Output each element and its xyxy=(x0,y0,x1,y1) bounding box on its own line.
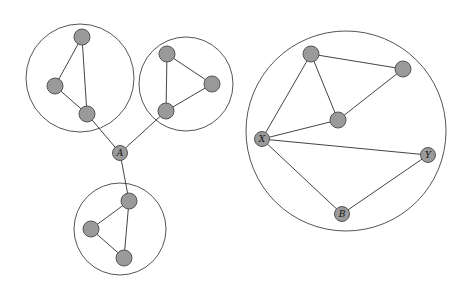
node-n12 xyxy=(330,112,346,128)
node-label: X xyxy=(258,134,266,144)
edge-n1-n3 xyxy=(82,37,87,114)
edge-n12-X xyxy=(262,120,338,139)
node-Y: Y xyxy=(421,148,436,163)
edge-Y-B xyxy=(342,155,428,214)
node-label: Y xyxy=(425,150,432,160)
cluster-c4 xyxy=(246,31,446,231)
node-circle xyxy=(121,193,137,209)
edges xyxy=(55,37,428,258)
edge-n11-n12 xyxy=(338,69,403,120)
node-n9 xyxy=(116,250,132,266)
node-label: B xyxy=(338,209,346,219)
node-circle xyxy=(79,106,95,122)
node-n6 xyxy=(158,103,174,119)
node-n1 xyxy=(74,29,90,45)
node-n2 xyxy=(47,78,63,94)
node-circle xyxy=(159,46,175,62)
node-n10 xyxy=(303,46,319,62)
node-n5 xyxy=(204,76,220,92)
node-circle xyxy=(330,112,346,128)
node-n11 xyxy=(395,61,411,77)
edge-X-B xyxy=(262,139,342,214)
node-B: B xyxy=(335,207,350,222)
node-n4 xyxy=(159,46,175,62)
node-n7 xyxy=(121,193,137,209)
edge-n10-n12 xyxy=(311,54,338,120)
node-circle xyxy=(204,76,220,92)
node-circle xyxy=(303,46,319,62)
node-circle xyxy=(74,29,90,45)
node-circle xyxy=(83,221,99,237)
node-circle xyxy=(395,61,411,77)
node-circle xyxy=(47,78,63,94)
node-A: A xyxy=(113,146,128,161)
node-X: X xyxy=(255,132,270,147)
clusters xyxy=(26,24,446,275)
node-label: A xyxy=(116,148,124,158)
edge-n4-n6 xyxy=(166,54,167,111)
edge-n6-A xyxy=(120,111,166,153)
edge-X-Y xyxy=(262,139,428,155)
node-n3 xyxy=(79,106,95,122)
edge-n10-n11 xyxy=(311,54,403,69)
node-circle xyxy=(158,103,174,119)
graph-diagram: AXYB xyxy=(0,0,469,291)
node-n8 xyxy=(83,221,99,237)
edge-n7-n9 xyxy=(124,201,129,258)
node-circle xyxy=(116,250,132,266)
